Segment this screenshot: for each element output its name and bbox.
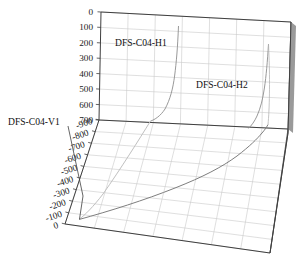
series-label-h2: DFS-C04-H2 bbox=[196, 79, 248, 90]
z-tick-label: 400 bbox=[79, 69, 93, 79]
series-label-h1: DFS-C04-H1 bbox=[115, 37, 167, 48]
plot-svg: 0 100 200 300 400 500 600 700 -900 -800 bbox=[0, 0, 307, 279]
z-tick-label: 600 bbox=[79, 100, 93, 110]
plot-figure: 0 100 200 300 400 500 600 700 -900 -800 bbox=[0, 0, 307, 279]
z-tick-label: 300 bbox=[79, 53, 93, 63]
y-tick-label: 0 bbox=[52, 220, 60, 231]
z-tick-label: 100 bbox=[79, 22, 93, 32]
z-axis-tick-labels: 0 100 200 300 400 500 600 700 bbox=[79, 7, 93, 125]
z-tick-label: 0 bbox=[88, 7, 93, 17]
z-tick-label: 200 bbox=[79, 38, 93, 48]
z-tick-label: 500 bbox=[79, 84, 93, 94]
series-label-v1: DFS-C04-V1 bbox=[8, 116, 60, 127]
